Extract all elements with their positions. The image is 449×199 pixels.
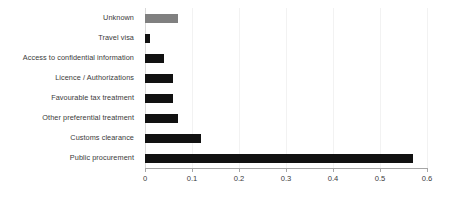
bar-slot [145, 88, 427, 108]
bar-slot [145, 108, 427, 128]
x-axis-tick-label: 0 [143, 175, 147, 183]
x-axis-tick [427, 168, 428, 172]
category-label: Licence / Authorizations [0, 68, 140, 88]
bar-slot [145, 128, 427, 148]
horizontal-bar-chart: UnknownTravel visaAccess to confidential… [0, 0, 449, 199]
gridline [427, 8, 428, 168]
bar [145, 34, 150, 43]
bar [145, 74, 173, 83]
x-axis-tick [286, 168, 287, 172]
x-axis-tick-labels: 00.10.20.30.40.50.6 [145, 175, 428, 189]
bar [145, 134, 201, 143]
category-axis-labels: UnknownTravel visaAccess to confidential… [0, 8, 140, 168]
bar-slot [145, 48, 427, 68]
x-axis-tick-label: 0.4 [328, 175, 339, 183]
x-axis-tick [239, 168, 240, 172]
category-label: Public procurement [0, 148, 140, 168]
bar-slot [145, 8, 427, 28]
category-label: Favourable tax treatment [0, 88, 140, 108]
x-axis-tick-label: 0.6 [422, 175, 433, 183]
x-axis-tick [192, 168, 193, 172]
bar [145, 114, 178, 123]
category-label: Customs clearance [0, 128, 140, 148]
bar-slot [145, 68, 427, 88]
x-axis-tick-label: 0.5 [375, 175, 386, 183]
x-axis-tick-label: 0.2 [234, 175, 245, 183]
bar [145, 154, 413, 163]
category-label: Other preferential treatment [0, 108, 140, 128]
bar [145, 54, 164, 63]
x-axis-tick-label: 0.1 [187, 175, 198, 183]
x-axis-tick [145, 168, 146, 172]
bar [145, 94, 173, 103]
bar [145, 14, 178, 23]
x-axis-tick [333, 168, 334, 172]
x-axis-tick-label: 0.3 [281, 175, 292, 183]
category-label: Access to confidential information [0, 48, 140, 68]
bar-slot [145, 28, 427, 48]
category-label: Travel visa [0, 28, 140, 48]
x-axis-ticks [145, 168, 428, 173]
plot-area [145, 8, 427, 168]
bar-slot [145, 148, 427, 168]
bar-series [145, 8, 427, 168]
x-axis-tick [380, 168, 381, 172]
category-label: Unknown [0, 8, 140, 28]
